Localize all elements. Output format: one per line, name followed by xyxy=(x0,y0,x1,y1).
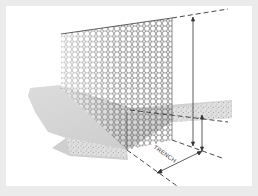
trench-depth-arrow xyxy=(201,115,204,151)
fence-trench-illustration: TRENCH xyxy=(0,0,258,196)
diagram-frame: TRENCH xyxy=(0,0,258,196)
trench-label: TRENCH xyxy=(152,144,177,164)
fence-height-arrow xyxy=(192,17,195,146)
